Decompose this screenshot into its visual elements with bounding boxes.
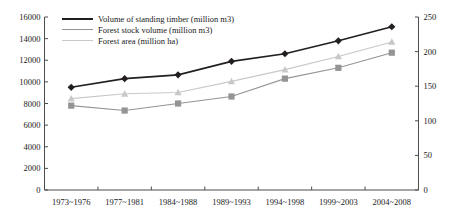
legend-label: Volume of standing timber (million m3) <box>98 14 234 24</box>
forest-resources-line-chart: 0200040006000800010000120001400016000 05… <box>0 0 463 221</box>
x-axis-tick-label: 1989~1993 <box>212 198 251 207</box>
data-point-diamond <box>174 71 181 78</box>
data-point-square <box>335 65 341 71</box>
y-axis-left-tick-label: 10000 <box>19 77 40 86</box>
legend-line-swatch <box>62 40 93 41</box>
y-axis-right-tick-label: 200 <box>424 47 437 56</box>
data-point-square <box>122 107 128 113</box>
x-axis-tick-label: 1994~1998 <box>266 198 305 207</box>
legend-line-swatch <box>62 18 93 20</box>
y-axis-left-tick-label: 6000 <box>24 121 41 130</box>
y-axis-left-tick-label: 16000 <box>19 13 40 22</box>
y-axis-right-tick-label: 50 <box>424 151 433 160</box>
data-point-square <box>228 93 234 99</box>
data-point-diamond <box>281 50 288 57</box>
legend-line-swatch <box>62 29 93 30</box>
y-axis-left-tick-label: 2000 <box>24 164 41 173</box>
data-point-square <box>282 76 288 82</box>
y-axis-right-tick-label: 100 <box>424 116 437 125</box>
chart-legend: Volume of standing timber (million m3)Fo… <box>62 13 234 46</box>
data-point-diamond <box>335 37 342 44</box>
data-point-diamond <box>228 58 235 65</box>
y-axis-left-tick-label: 0 <box>36 186 40 195</box>
data-point-diamond <box>68 84 75 91</box>
data-point-square <box>175 100 181 106</box>
y-axis-left-tick-label: 12000 <box>19 56 40 65</box>
legend-item[interactable]: Forest area (million ha) <box>62 35 234 46</box>
x-axis-tick-label: 1984~1988 <box>159 198 198 207</box>
data-point-triangle <box>388 38 395 44</box>
series-triangle <box>68 38 396 101</box>
y-axis-right-tick-label: 0 <box>424 186 428 195</box>
data-point-diamond <box>121 75 128 82</box>
legend-item[interactable]: Forest stock volume (million m3) <box>62 24 234 35</box>
legend-label: Forest area (million ha) <box>98 36 178 46</box>
y-axis-left-tick-label: 4000 <box>24 142 41 151</box>
data-point-square <box>389 50 395 56</box>
legend-item[interactable]: Volume of standing timber (million m3) <box>62 13 234 24</box>
series-line-triangle <box>71 42 392 99</box>
legend-label: Forest stock volume (million m3) <box>98 25 212 35</box>
y-axis-left-tick-label: 14000 <box>19 34 40 43</box>
data-point-square <box>68 103 74 109</box>
x-axis-tick-label: 1973~1976 <box>52 198 91 207</box>
x-axis-tick-label: 1999~2003 <box>319 198 358 207</box>
y-axis-right-tick-label: 150 <box>424 82 437 91</box>
y-axis-right-tick-label: 250 <box>424 13 437 22</box>
x-axis-tick-label: 2004~2008 <box>372 198 411 207</box>
y-axis-left-tick-label: 8000 <box>24 99 41 108</box>
x-axis-tick-label: 1977~1981 <box>105 198 144 207</box>
data-point-diamond <box>388 23 395 30</box>
